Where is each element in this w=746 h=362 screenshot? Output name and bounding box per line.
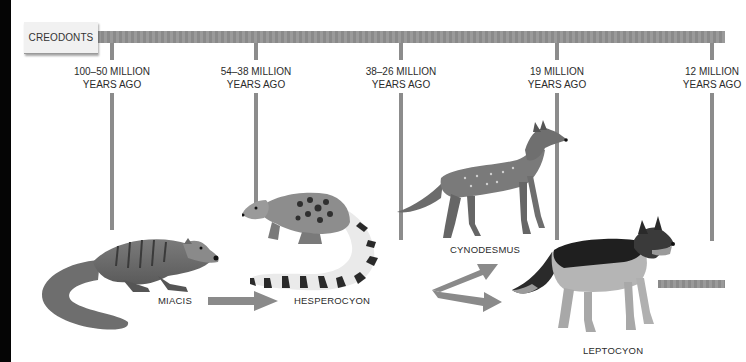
date-line-2: YEARS AGO bbox=[57, 78, 167, 91]
date-line-1: 19 MILLION bbox=[502, 65, 612, 78]
date-line-1: 12 MILLION bbox=[657, 65, 746, 78]
tick-period-5-top bbox=[710, 43, 714, 60]
leptocyon-label: LEPTOCYON bbox=[583, 345, 643, 356]
date-line-2: YEARS AGO bbox=[502, 78, 612, 91]
tick-period-3-top bbox=[399, 43, 403, 60]
hesperocyon-illustration-icon bbox=[242, 188, 382, 298]
tick-period-5-line bbox=[710, 93, 714, 241]
leptocyon-illustration-icon bbox=[512, 212, 677, 342]
timeline-bar bbox=[95, 31, 725, 43]
date-label-period-5: 12 MILLION YEARS AGO bbox=[657, 65, 746, 91]
tick-period-4-top bbox=[555, 43, 559, 60]
date-line-2: YEARS AGO bbox=[346, 78, 456, 91]
miacis-illustration-icon bbox=[38, 232, 223, 332]
date-line-1: 54–38 MILLION bbox=[201, 65, 311, 78]
tick-period-2-top bbox=[254, 43, 258, 60]
tick-period-1-line bbox=[110, 93, 114, 230]
creodonts-label-box: CREODONTS bbox=[24, 22, 98, 54]
date-line-2: YEARS AGO bbox=[657, 78, 746, 91]
forked-arrow-icon bbox=[430, 258, 520, 318]
left-border bbox=[0, 0, 11, 362]
tick-period-2-line bbox=[254, 93, 258, 203]
date-label-period-4: 19 MILLION YEARS AGO bbox=[502, 65, 612, 91]
date-label-period-3: 38–26 MILLION YEARS AGO bbox=[346, 65, 456, 91]
date-line-1: 100–50 MILLION bbox=[57, 65, 167, 78]
creodonts-label: CREODONTS bbox=[29, 32, 94, 43]
cynodesmus-label: CYNODESMUS bbox=[450, 244, 520, 255]
miacis-label: MIACIS bbox=[158, 295, 192, 306]
tick-period-1-top bbox=[110, 43, 114, 60]
hesperocyon-label: HESPEROCYON bbox=[294, 295, 370, 306]
timeline-bar-lower bbox=[658, 280, 725, 288]
date-label-period-2: 54–38 MILLION YEARS AGO bbox=[201, 65, 311, 91]
date-label-period-1: 100–50 MILLION YEARS AGO bbox=[57, 65, 167, 91]
date-line-1: 38–26 MILLION bbox=[346, 65, 456, 78]
date-line-2: YEARS AGO bbox=[201, 78, 311, 91]
